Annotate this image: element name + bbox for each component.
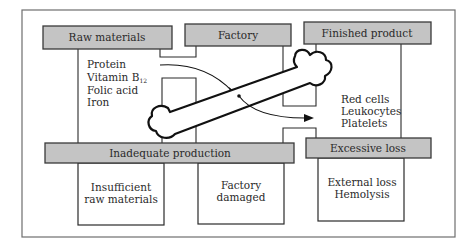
text-raw-materials: raw materials — [84, 193, 158, 205]
item-red-cells: Red cells — [341, 93, 389, 105]
svg-text:Factory: Factory — [218, 29, 258, 41]
text-insufficient: Insufficient — [91, 181, 152, 193]
svg-text:Inadequate production: Inadequate production — [109, 147, 231, 159]
text-external-loss: External loss — [327, 176, 396, 188]
bar-raw-materials: Raw materials — [43, 26, 172, 49]
svg-text:Excessive loss: Excessive loss — [330, 142, 406, 154]
svg-text:Raw materials: Raw materials — [69, 31, 146, 43]
text-factory: Factory — [221, 179, 261, 191]
bar-factory: Factory — [185, 24, 291, 46]
bar-finished-product: Finished product — [304, 22, 431, 44]
bar-inadequate-production: Inadequate production — [45, 143, 294, 163]
item-protein: Protein — [87, 58, 126, 70]
svg-text:Finished product: Finished product — [322, 27, 414, 39]
item-iron: Iron — [87, 96, 109, 108]
diagram-canvas: Raw materials Factory Finished product P… — [0, 0, 466, 248]
item-vitamin-b12: Vitamin B12 — [86, 71, 147, 84]
item-folic-acid: Folic acid — [87, 84, 138, 96]
text-damaged: damaged — [217, 191, 266, 203]
item-leukocytes: Leukocytes — [341, 105, 401, 117]
bar-excessive-loss: Excessive loss — [306, 138, 431, 158]
text-hemolysis: Hemolysis — [334, 188, 389, 200]
item-platelets: Platelets — [341, 117, 387, 129]
